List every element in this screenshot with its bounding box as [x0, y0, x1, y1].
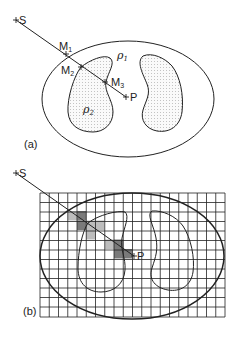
m3-label: M3 — [111, 76, 124, 89]
p-label-b: P — [137, 250, 144, 262]
left-lung-region — [68, 57, 113, 132]
right-lung-region — [140, 55, 182, 132]
m2-label: M2 — [61, 64, 74, 77]
panel-b: S P (b) — [13, 167, 225, 319]
figure-canvas: S M1 M2 M3 P ρ1 ρ2 (a) — [0, 0, 235, 337]
m1-label: M1 — [59, 40, 72, 53]
source-label-b: S — [19, 167, 26, 179]
outer-body-ellipse — [42, 41, 214, 157]
panel-a-label: (a) — [24, 138, 37, 150]
ray-line-b — [16, 173, 134, 256]
rho1-label: ρ1 — [116, 49, 128, 63]
source-label-a: S — [19, 14, 26, 26]
panel-b-label: (b) — [23, 305, 36, 317]
p-label-a: P — [130, 91, 137, 103]
p-marker-icon — [123, 94, 129, 100]
panel-a: S M1 M2 M3 P ρ1 ρ2 (a) — [13, 14, 214, 157]
